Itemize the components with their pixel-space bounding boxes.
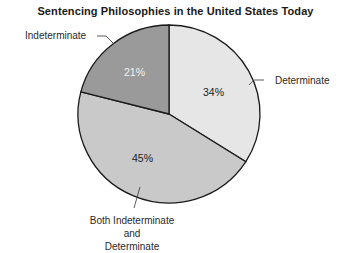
label-determinate: Determinate (275, 74, 329, 87)
label-both-line2: and (70, 227, 194, 240)
label-both-line1: Both Indeterminate (70, 214, 194, 227)
label-indeterminate: Indeterminate (25, 29, 86, 42)
slice-value-determinate: 34% (203, 86, 224, 98)
slice-value-indeterminate: 21% (124, 66, 145, 78)
pie-slices (78, 25, 260, 203)
label-both: Both Indeterminate and Determinate (70, 214, 194, 253)
leader-line-indeterminate (97, 36, 114, 44)
slice-value-both: 45% (132, 152, 153, 164)
label-both-line3: Determinate (70, 240, 194, 253)
